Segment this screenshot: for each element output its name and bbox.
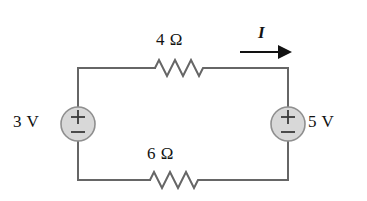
voltage-source-left-label: 3 V bbox=[13, 112, 39, 132]
voltage-source-right-symbol bbox=[271, 107, 305, 141]
circuit-diagram-figure: 4 Ω 6 Ω 3 V 5 V I bbox=[0, 0, 367, 201]
resistor-bottom-zigzag bbox=[150, 172, 200, 188]
current-arrow-icon bbox=[240, 45, 292, 59]
current-arrow-head bbox=[278, 45, 292, 59]
circuit-schematic-canvas bbox=[0, 0, 367, 201]
voltage-source-right-label: 5 V bbox=[308, 112, 334, 132]
voltage-source-left-symbol bbox=[61, 107, 95, 141]
resistor-top-label: 4 Ω bbox=[156, 30, 183, 50]
current-label: I bbox=[258, 23, 265, 43]
resistor-top-zigzag bbox=[155, 60, 205, 76]
resistor-top-symbol bbox=[155, 60, 205, 76]
circuit-wires bbox=[78, 68, 288, 180]
resistor-bottom-symbol bbox=[150, 172, 200, 188]
resistor-bottom-label: 6 Ω bbox=[147, 144, 174, 164]
